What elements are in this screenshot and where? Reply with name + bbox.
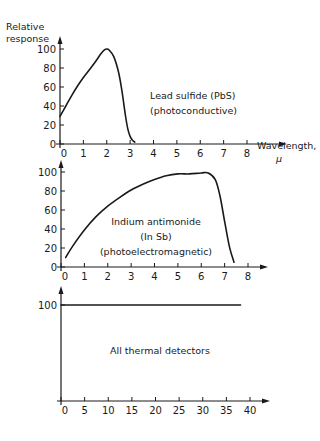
y-axis-title-line2: response <box>6 33 49 44</box>
chart-panel-indium-antimonide: 012345678020406080100Indium antimonide(I… <box>38 160 268 282</box>
y-tick-label: 80 <box>44 186 57 197</box>
x-tick-label: 1 <box>80 148 86 159</box>
x-tick-label: 1 <box>81 271 87 282</box>
x-tick-label: 30 <box>196 405 209 416</box>
x-tick-label: 4 <box>151 271 157 282</box>
x-tick-label: 6 <box>197 148 203 159</box>
chart-panel-thermal-detectors: 0510152025303540100All thermal detectors <box>38 286 270 416</box>
x-tick-label: 5 <box>174 148 180 159</box>
y-tick-label: 20 <box>43 120 56 131</box>
x-tick-label: 7 <box>221 271 227 282</box>
y-axis-arrow-icon <box>59 286 64 294</box>
y-tick-label: 60 <box>43 82 56 93</box>
y-tick-label: 100 <box>37 44 56 55</box>
y-tick-label: 60 <box>44 205 57 216</box>
x-axis-arrow-icon <box>260 265 268 270</box>
x-tick-label: 8 <box>245 271 251 282</box>
x-tick-label: 5 <box>175 271 181 282</box>
x-axis-arrow-icon <box>262 399 270 404</box>
x-tick-label: 40 <box>244 405 257 416</box>
response-curve <box>60 49 135 142</box>
x-tick-label: 10 <box>102 405 115 416</box>
x-tick-label: 2 <box>104 148 110 159</box>
x-tick-label: 0 <box>61 148 67 159</box>
x-tick-label: 15 <box>126 405 139 416</box>
x-tick-label: 35 <box>220 405 233 416</box>
detector-label: (photoelectromagnetic) <box>100 246 212 257</box>
x-tick-label: 8 <box>244 148 250 159</box>
y-tick-label: 0 <box>51 262 57 273</box>
y-axis-arrow-icon <box>58 36 63 44</box>
x-tick-label: 20 <box>149 405 162 416</box>
chart-canvas: Relative response Wavelength, μ 01234567… <box>0 0 320 441</box>
x-tick-label: 0 <box>62 271 68 282</box>
x-tick-label: 3 <box>127 148 133 159</box>
y-tick-label: 100 <box>38 167 57 178</box>
spectral-response-figure: Relative response Wavelength, μ 01234567… <box>0 0 320 441</box>
x-tick-label: 6 <box>198 271 204 282</box>
y-tick-label: 80 <box>43 63 56 74</box>
detector-label: (photoconductive) <box>150 105 237 116</box>
x-tick-label: 0 <box>62 405 68 416</box>
y-tick-label: 40 <box>44 224 57 235</box>
y-axis-title-line1: Relative <box>6 21 44 32</box>
x-tick-label: 5 <box>81 405 87 416</box>
detector-label: Lead sulfide (PbS) <box>150 90 236 101</box>
detector-label: All thermal detectors <box>110 345 210 356</box>
chart-panel-lead-sulfide: 012345678020406080100Lead sulfide (PbS)(… <box>37 36 287 159</box>
x-tick-label: 4 <box>150 148 156 159</box>
x-axis-title-line1: Wavelength, <box>257 140 316 151</box>
x-axis-title-line2: μ <box>275 153 282 164</box>
detector-label: Indium antimonide <box>111 216 201 227</box>
x-tick-label: 7 <box>220 148 226 159</box>
y-tick-label: 100 <box>38 300 57 311</box>
x-tick-label: 2 <box>105 271 111 282</box>
y-axis-arrow-icon <box>59 160 64 168</box>
x-tick-label: 25 <box>173 405 186 416</box>
x-tick-label: 3 <box>128 271 134 282</box>
y-tick-label: 0 <box>50 139 56 150</box>
y-tick-label: 20 <box>44 243 57 254</box>
detector-label: (In Sb) <box>140 231 171 242</box>
y-tick-label: 40 <box>43 101 56 112</box>
